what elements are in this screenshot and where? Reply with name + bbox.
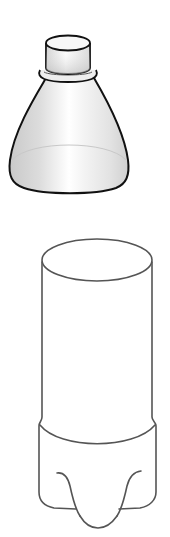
bottle-top-cap-lid <box>46 36 90 51</box>
bottle-illustration <box>0 0 170 537</box>
bottle-bottom-center-lobe <box>80 516 117 528</box>
bottle-top-dome <box>10 78 129 193</box>
bottle-bottom-left-groove <box>57 473 80 516</box>
bottle-bottom-left-wall <box>39 262 76 509</box>
bottle-bottom <box>39 239 156 528</box>
bottle-bottom-base-band <box>40 425 155 444</box>
bottle-top <box>10 36 129 194</box>
bottle-bottom-opening <box>42 239 152 281</box>
